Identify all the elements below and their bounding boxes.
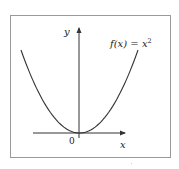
scan-artifact (131, 163, 132, 164)
origin-label: 0 (69, 136, 75, 146)
parabola-plot: y x 0 f(x) = x2 (0, 0, 179, 169)
x-axis-label: x (120, 139, 126, 150)
y-axis-label: y (63, 26, 70, 37)
function-label: f(x) = x2 (109, 37, 152, 49)
function-label-main: f(x) = x (109, 38, 148, 49)
function-label-exponent: 2 (148, 37, 152, 45)
